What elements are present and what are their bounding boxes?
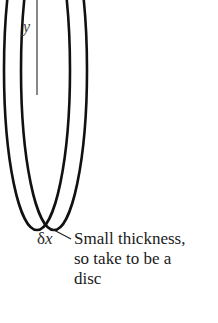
annotation-line-2: so take to be a	[74, 249, 185, 269]
thickness-variable: x	[45, 229, 53, 248]
delta-symbol: δ	[37, 229, 45, 248]
disc-diagram: y δx Small thickness, so take to be a di…	[0, 0, 218, 323]
annotation-line-3: disc	[74, 269, 185, 289]
annotation-text: Small thickness, so take to be a disc	[74, 229, 185, 289]
thickness-label: δx	[37, 229, 53, 249]
radius-label: y	[23, 18, 30, 36]
annotation-line-1: Small thickness,	[74, 229, 185, 249]
back-face-ellipse	[21, 0, 87, 230]
leader-line	[50, 228, 71, 239]
